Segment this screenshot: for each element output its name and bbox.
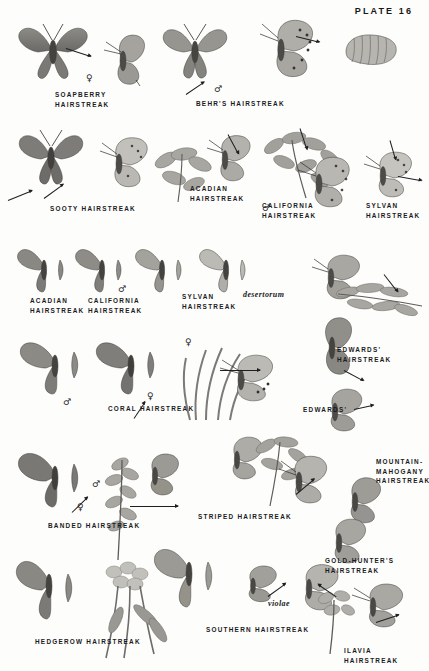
butterfly-hedgerow-dorsal bbox=[12, 546, 84, 622]
butterfly-coral-dorsal-male bbox=[16, 330, 94, 396]
butterfly-desertorum-dorsal bbox=[196, 240, 258, 294]
sex-symbol-male: ♂ bbox=[63, 398, 71, 407]
sex-symbol-female: ♀ bbox=[147, 392, 154, 401]
leader-coral-2 bbox=[220, 370, 260, 371]
label-sylvan-hairstreak-2: SYLVAN HAIRSTREAK bbox=[182, 292, 236, 311]
label-behrs-hairstreak: BEHR'S HAIRSTREAK bbox=[196, 99, 285, 109]
label-striped-hairstreak: STRIPED HAIRSTREAK bbox=[198, 512, 292, 522]
label-ilavia-hairstreak: ILAVIA HAIRSTREAK bbox=[344, 646, 429, 665]
label-acadian-hairstreak-2: ACADIAN HAIRSTREAK bbox=[30, 296, 84, 315]
butterfly-sooty-dorsal bbox=[16, 124, 88, 186]
sex-symbol-female: ♀ bbox=[185, 338, 192, 347]
leader-sooty-2 bbox=[8, 190, 32, 201]
sex-symbol-male: ♂ bbox=[92, 480, 100, 489]
caterpillar-larva bbox=[340, 30, 402, 70]
butterfly-behrs-dorsal bbox=[160, 18, 230, 80]
leader-banded-2 bbox=[130, 506, 178, 507]
label-sylvan-hairstreak: SYLVAN HAIRSTREAK bbox=[366, 201, 420, 220]
butterfly-coral-dorsal-female bbox=[92, 330, 170, 396]
leader-sooty bbox=[44, 184, 64, 199]
butterfly-soapberry-dorsal bbox=[16, 18, 90, 80]
label-acadian-hairstreak: ACADIAN HAIRSTREAK bbox=[190, 184, 244, 203]
label-edwards: EDWARDS' bbox=[303, 405, 347, 415]
label-violae: violae bbox=[268, 599, 290, 609]
plate-page: PLATE 16 bbox=[0, 0, 429, 671]
butterfly-banded-dorsal bbox=[14, 440, 94, 510]
label-desertorum: desertorum bbox=[243, 290, 284, 300]
butterfly-behrs-ventral bbox=[244, 14, 328, 84]
label-california-hairstreak: CALIFORNIA HAIRSTREAK bbox=[262, 201, 316, 220]
label-sooty-hairstreak: SOOTY HAIRSTREAK bbox=[50, 204, 136, 214]
sex-symbol-male: ♂ bbox=[214, 85, 222, 94]
label-mountain-mahogany-hairstreak: MOUNTAIN- MAHOGANY HAIRSTREAK bbox=[376, 457, 429, 486]
butterfly-sylvan-dorsal bbox=[132, 240, 194, 294]
butterfly-banded-ventral bbox=[128, 448, 188, 504]
sex-symbol-female: ♀ bbox=[77, 503, 84, 512]
label-hedgerow-hairstreak: HEDGEROW HAIRSTREAK bbox=[35, 637, 141, 647]
label-coral-hairstreak: CORAL HAIRSTREAK bbox=[108, 404, 194, 414]
butterfly-soapberry-ventral bbox=[92, 30, 162, 90]
plate-title: PLATE 16 bbox=[355, 6, 413, 16]
sex-symbol-female: ♀ bbox=[86, 74, 93, 83]
butterfly-sylvan-ventral bbox=[352, 146, 424, 204]
label-edwards-hairstreak: EDWARDS' HAIRSTREAK bbox=[337, 345, 391, 364]
sex-symbol-male: ♂ bbox=[118, 285, 126, 294]
butterfly-coral-ventral bbox=[206, 348, 292, 408]
label-banded-hairstreak: BANDED HAIRSTREAK bbox=[48, 521, 140, 531]
butterfly-ilavia-ventral bbox=[340, 576, 420, 636]
butterfly-acadian-dorsal bbox=[14, 240, 76, 294]
leader-behrs bbox=[186, 82, 205, 95]
butterfly-southern-dorsal bbox=[150, 536, 230, 610]
label-southern-hairstreak: SOUTHERN HAIRSTREAK bbox=[206, 625, 309, 635]
label-gold-hunters-hairstreak: GOLD-HUNTER'S HAIRSTREAK bbox=[325, 556, 394, 575]
label-california-hairstreak-2: CALIFORNIA HAIRSTREAK bbox=[88, 296, 142, 315]
label-soapberry-hairstreak: SOAPBERRY HAIRSTREAK bbox=[55, 90, 109, 109]
